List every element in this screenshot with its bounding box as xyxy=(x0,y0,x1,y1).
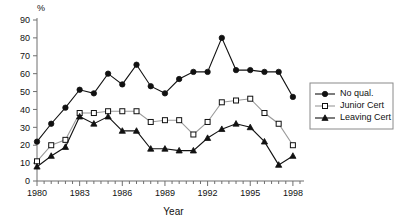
x-tick-label: 1992 xyxy=(198,188,218,198)
series-line xyxy=(37,117,293,167)
data-point xyxy=(191,69,196,74)
y-tick-label: 40 xyxy=(20,105,30,115)
data-point xyxy=(233,121,239,127)
data-point xyxy=(62,144,68,150)
chart-canvas: 0102030405060708090 19801983198619891992… xyxy=(0,0,397,223)
y-tick-label: 60 xyxy=(20,69,30,79)
y-tick-label: 20 xyxy=(20,140,30,150)
data-point xyxy=(134,62,139,67)
y-tick-label: 90 xyxy=(20,15,30,25)
data-point xyxy=(91,121,97,127)
data-point xyxy=(233,67,238,72)
data-point xyxy=(204,135,210,141)
series-layer xyxy=(34,35,296,169)
x-tick-label: 1989 xyxy=(155,188,175,198)
data-point xyxy=(49,121,54,126)
data-point xyxy=(276,121,281,126)
data-point xyxy=(91,111,96,116)
data-point xyxy=(148,83,153,88)
data-point xyxy=(63,105,68,110)
data-point xyxy=(219,100,224,105)
data-point xyxy=(205,119,210,124)
x-tick-label: 1983 xyxy=(70,188,90,198)
data-point xyxy=(105,113,111,119)
data-point xyxy=(34,139,39,144)
x-tick-label: 1980 xyxy=(27,188,47,198)
line-chart: 0102030405060708090 19801983198619891992… xyxy=(0,0,397,223)
data-point xyxy=(120,82,125,87)
data-point xyxy=(276,162,282,168)
data-point xyxy=(176,76,181,81)
data-point xyxy=(234,98,239,103)
data-point xyxy=(205,69,210,74)
x-tick-label: 1995 xyxy=(240,188,260,198)
data-point xyxy=(49,143,54,148)
data-point xyxy=(290,143,295,148)
y-tick-label: 0 xyxy=(25,176,30,186)
data-point xyxy=(134,109,139,114)
data-point xyxy=(248,96,253,101)
data-point xyxy=(276,69,281,74)
data-point xyxy=(248,67,253,72)
y-tick-label: 10 xyxy=(20,158,30,168)
data-point xyxy=(177,118,182,123)
series-no-qual xyxy=(34,35,295,144)
x-tick-label: 1986 xyxy=(112,188,132,198)
x-tick-label: 1998 xyxy=(283,188,303,198)
data-point xyxy=(191,132,196,137)
y-tick-label: 70 xyxy=(20,51,30,61)
data-point xyxy=(120,109,125,114)
x-axis-minor-ticks xyxy=(37,181,300,186)
y-axis-ticks xyxy=(33,20,37,181)
legend-label: No qual. xyxy=(340,88,374,98)
data-point xyxy=(162,118,167,123)
data-point xyxy=(48,153,54,159)
data-point xyxy=(105,71,110,76)
data-point xyxy=(34,163,40,169)
data-point xyxy=(262,111,267,116)
y-axis-unit-label: % xyxy=(37,3,45,13)
x-axis-tick-labels: 1980198319861989199219951998 xyxy=(27,188,303,198)
data-point xyxy=(91,91,96,96)
legend-swatch-marker xyxy=(322,91,327,96)
legend-swatch-marker xyxy=(323,104,328,109)
y-tick-label: 50 xyxy=(20,87,30,97)
x-axis-title: Year xyxy=(163,206,184,217)
data-point xyxy=(290,153,296,159)
data-point xyxy=(148,119,153,124)
chart-legend: No qual.Junior CertLeaving Cert xyxy=(310,83,393,129)
y-tick-label: 30 xyxy=(20,123,30,133)
y-tick-label: 80 xyxy=(20,33,30,43)
legend-label: Junior Cert xyxy=(340,100,385,110)
data-point xyxy=(63,137,68,142)
data-point xyxy=(162,91,167,96)
data-point xyxy=(77,87,82,92)
legend-label: Leaving Cert xyxy=(340,112,392,122)
data-point xyxy=(219,35,224,40)
data-point xyxy=(290,94,295,99)
data-point xyxy=(262,69,267,74)
y-axis-tick-labels: 0102030405060708090 xyxy=(20,15,30,186)
series-line xyxy=(37,99,293,162)
